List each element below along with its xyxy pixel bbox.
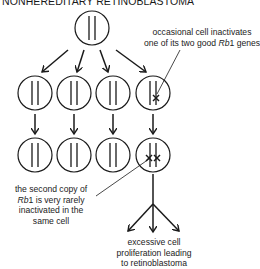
annotation-line: one of its two good Rb1 genes <box>142 38 260 49</box>
second-hit-annotation: the second copy of Rb1 is very rarely in… <box>6 184 96 226</box>
annotation-line: proliferation leading <box>108 248 200 259</box>
annotation-line: the second copy of <box>6 184 96 195</box>
gen2-cell-3 <box>96 138 130 172</box>
gene-name: Rb <box>18 195 29 205</box>
gen1-cell-3 <box>96 76 130 110</box>
gene-name: Rb <box>218 38 229 48</box>
annotation-line: to retinoblastoma <box>108 258 200 269</box>
second-hit-pointer <box>96 159 149 196</box>
gen2-cell-4-double-mutated <box>136 138 170 172</box>
gen1-cell-1 <box>18 76 52 110</box>
gen2-cell-2 <box>57 138 91 172</box>
annotation-line: Rb1 is very rarely <box>6 195 96 206</box>
first-hit-annotation: occasional cell inactivates one of its t… <box>142 27 260 48</box>
annotation-line: occasional cell inactivates <box>142 27 260 38</box>
gen1-cell-2 <box>57 76 91 110</box>
outcome-annotation: excessive cell proliferation leading to … <box>108 237 200 269</box>
division-arrows-gen1 <box>42 50 146 72</box>
division-arrows-gen2 <box>35 114 153 134</box>
proliferation-arrows <box>128 174 179 232</box>
annotation-text: 1 genes <box>229 38 260 48</box>
root-cell <box>75 11 109 45</box>
diagram-title: NONHEREDITARY RETINOBLASTOMA <box>2 0 194 7</box>
annotation-text: one of its two good <box>144 38 219 48</box>
annotation-line: inactivated in the <box>6 205 96 216</box>
gen1-cell-4-mutated <box>136 76 170 110</box>
annotation-line: same cell <box>6 216 96 227</box>
annotation-text: 1 is very rarely <box>29 195 85 205</box>
annotation-line: excessive cell <box>108 237 200 248</box>
gen2-cell-1 <box>18 138 52 172</box>
